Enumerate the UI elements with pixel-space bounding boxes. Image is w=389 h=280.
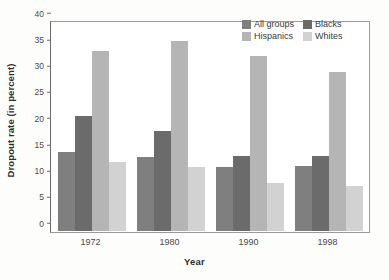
y-axis-tick: 30 (35, 62, 51, 71)
bar-group (210, 23, 289, 231)
legend-item[interactable]: Hispanics (242, 32, 294, 41)
y-axis-tick: 40 (35, 9, 51, 18)
bar[interactable] (267, 183, 284, 231)
bar[interactable] (154, 131, 171, 231)
y-axis-tick-label: 0 (39, 219, 47, 228)
legend-swatch-icon (242, 32, 251, 41)
y-axis-tick: 15 (35, 141, 51, 150)
bar-group (52, 23, 131, 231)
y-axis-tick-label: 20 (35, 114, 47, 123)
chart-legend: All groupsBlacksHispanicsWhites (240, 19, 345, 42)
bar[interactable] (75, 116, 92, 231)
legend-label: Hispanics (254, 32, 293, 41)
y-axis-tick-mark (47, 118, 51, 119)
x-axis-tick-label: 1998 (317, 237, 337, 247)
y-axis-tick-mark (47, 197, 51, 198)
bar[interactable] (312, 156, 329, 231)
bar[interactable] (216, 167, 233, 231)
y-axis-tick: 25 (35, 88, 51, 97)
y-axis-tick-label: 15 (35, 141, 47, 150)
y-axis-title: Dropout rate (in percent) (0, 0, 22, 240)
y-axis-tick: 20 (35, 114, 51, 123)
y-axis-tick-mark (47, 223, 51, 224)
y-axis-tick-mark (47, 92, 51, 93)
y-axis-tick-mark (47, 39, 51, 40)
bars-container (52, 23, 368, 231)
legend-item[interactable]: All groups (242, 20, 294, 29)
y-axis-tick: 5 (39, 193, 51, 202)
y-axis-tick-label: 5 (39, 193, 47, 202)
legend-label: Blacks (315, 20, 342, 29)
y-axis-tick-mark (47, 144, 51, 145)
y-axis-tick-label: 40 (35, 9, 47, 18)
y-axis-tick-mark (47, 13, 51, 14)
bar[interactable] (137, 157, 154, 231)
bar[interactable] (346, 186, 363, 231)
y-axis-tick-label: 35 (35, 36, 47, 45)
y-axis-tick: 10 (35, 167, 51, 176)
bar[interactable] (233, 156, 250, 231)
bar[interactable] (92, 51, 109, 231)
bar-chart: Dropout rate (in percent) 05101520253035… (0, 0, 389, 280)
y-axis-tick: 0 (39, 219, 51, 228)
y-axis-tick-label: 30 (35, 62, 47, 71)
y-axis-tick-label: 25 (35, 88, 47, 97)
x-axis-title: Year (0, 256, 389, 267)
y-axis-tick-label: 10 (35, 167, 47, 176)
y-axis-tick: 35 (35, 36, 51, 45)
legend-label: Whites (315, 32, 343, 41)
legend-label: All groups (254, 20, 294, 29)
x-axis-tick-label: 1990 (238, 237, 258, 247)
legend-swatch-icon (303, 20, 312, 29)
x-axis-tick-label: 1972 (80, 237, 100, 247)
plot-area: 0510152025303540 (50, 21, 370, 233)
bar[interactable] (171, 41, 188, 231)
legend-item[interactable]: Blacks (303, 20, 343, 29)
y-axis-tick-mark (47, 171, 51, 172)
y-axis-tick-mark (47, 66, 51, 67)
bar[interactable] (250, 56, 267, 231)
y-axis-title-text: Dropout rate (in percent) (6, 63, 17, 177)
bar[interactable] (109, 162, 126, 231)
bar-group (289, 23, 368, 231)
bar-group (131, 23, 210, 231)
bar[interactable] (58, 152, 75, 231)
bar[interactable] (329, 72, 346, 231)
legend-item[interactable]: Whites (303, 32, 343, 41)
bar[interactable] (295, 166, 312, 231)
bar[interactable] (188, 167, 205, 231)
legend-swatch-icon (242, 20, 251, 29)
x-axis-tick-label: 1980 (159, 237, 179, 247)
legend-swatch-icon (303, 32, 312, 41)
